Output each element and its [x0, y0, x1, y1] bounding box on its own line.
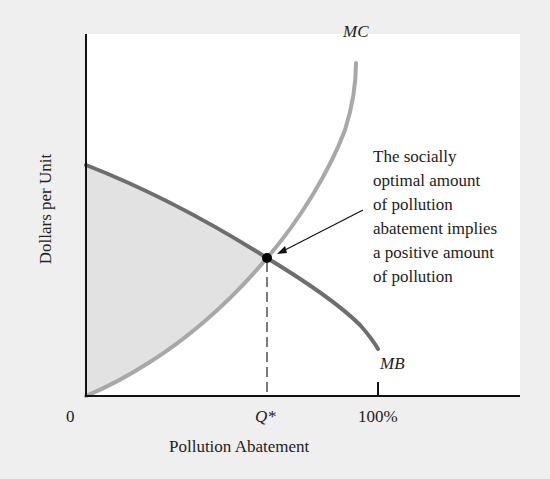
q-star-label: Q*	[255, 407, 276, 427]
annotation-line: of pollution	[373, 265, 497, 289]
mb-label: MB	[380, 354, 405, 374]
y-axis-title: Dollars per Unit	[36, 154, 56, 264]
x-axis-title: Pollution Abatement	[169, 437, 309, 457]
equilibrium-point	[262, 253, 272, 263]
hundred-percent-label: 100%	[358, 407, 398, 427]
annotation-text: The socially optimal amount of pollution…	[373, 145, 497, 289]
annotation-line: of pollution	[373, 193, 497, 217]
annotation-line: The socially	[373, 145, 497, 169]
annotation-line: a positive amount	[373, 241, 497, 265]
annotation-line: optimal amount	[373, 169, 497, 193]
annotation-arrow-line	[283, 210, 363, 251]
annotation-line: abatement implies	[373, 217, 497, 241]
net-benefit-area	[86, 165, 267, 396]
origin-label: 0	[66, 407, 75, 427]
mc-label: MC	[343, 22, 369, 42]
